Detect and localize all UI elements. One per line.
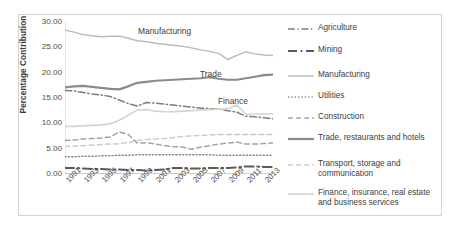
- x-axis-tick-labels: 1991199319951997199920012003200520072009…: [65, 176, 273, 220]
- legend-swatch-icon: [288, 113, 314, 122]
- legend-item[interactable]: Utilities: [288, 91, 440, 101]
- legend-label: Mining: [314, 45, 342, 55]
- legend-swatch-icon: [288, 71, 314, 80]
- legend-label: Utilities: [314, 91, 344, 101]
- legend-label: Trade, restaurants and hotels: [314, 133, 425, 143]
- legend-label: Manufacturing: [314, 70, 370, 80]
- legend-item[interactable]: Manufacturing: [288, 70, 440, 80]
- chart-container: Percentage Contribution 0.005.0010.0015.…: [0, 0, 455, 229]
- series-line-finance: [65, 105, 273, 126]
- y-tick-5-00: 5.00: [46, 145, 62, 153]
- y-tick-0-00: 0.00: [46, 170, 62, 178]
- chart-legend: AgricultureMiningManufacturingUtilitiesC…: [288, 20, 440, 206]
- y-tick-20-00: 20.00: [42, 69, 62, 77]
- legend-label: Construction: [314, 112, 364, 122]
- legend-swatch-icon: [288, 24, 314, 33]
- legend-item[interactable]: Construction: [288, 112, 440, 122]
- series-line-transport: [65, 134, 273, 146]
- y-tick-15-00: 15.00: [42, 94, 62, 102]
- series-line-trade: [65, 75, 273, 90]
- y-axis-tick-labels: 0.005.0010.0015.0020.0025.0030.00: [0, 22, 62, 174]
- annotation-finance: Finance: [218, 96, 248, 106]
- legend-item[interactable]: Mining: [288, 45, 440, 55]
- legend-label: Agriculture: [314, 23, 357, 33]
- legend-item[interactable]: Transport, storage and communication: [288, 159, 440, 178]
- legend-swatch-icon: [288, 46, 314, 55]
- series-line-utilities: [65, 155, 273, 157]
- legend-item[interactable]: Finance, insurance, real estate and busi…: [288, 188, 440, 207]
- y-tick-25-00: 25.00: [42, 43, 62, 51]
- legend-item[interactable]: Agriculture: [288, 23, 440, 33]
- legend-swatch-icon: [288, 160, 314, 169]
- annotation-manufacturing: Manufacturing: [138, 26, 191, 36]
- legend-swatch-icon: [288, 189, 314, 198]
- legend-swatch-icon: [288, 134, 314, 143]
- legend-label: Transport, storage and communication: [314, 159, 440, 178]
- y-tick-10-00: 10.00: [42, 119, 62, 127]
- legend-swatch-icon: [288, 92, 314, 101]
- legend-item[interactable]: Trade, restaurants and hotels: [288, 133, 440, 143]
- y-tick-30-00: 30.00: [42, 18, 62, 26]
- series-line-construction: [65, 132, 273, 149]
- legend-label: Finance, insurance, real estate and busi…: [314, 188, 440, 207]
- annotation-trade: Trade: [200, 69, 222, 79]
